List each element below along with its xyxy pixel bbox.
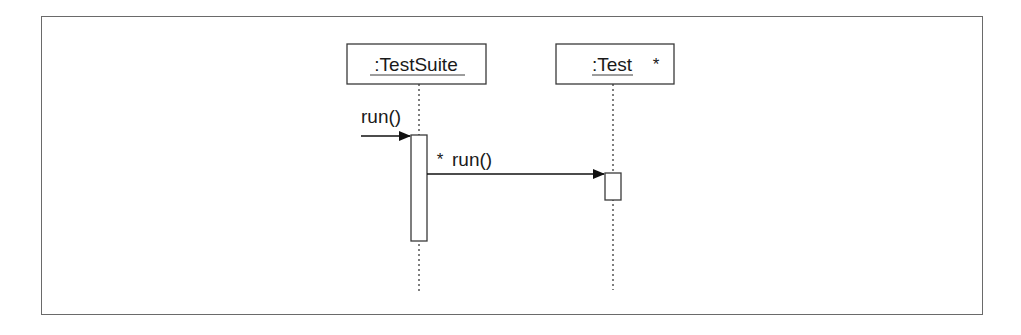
testsuite-activation-bar	[411, 135, 427, 241]
sequence-diagram: :TestSuite :Test * run() * run()	[0, 0, 1021, 335]
incoming-run-label: run()	[361, 106, 401, 127]
test-label: :Test	[592, 54, 633, 75]
test-activation-bar	[605, 173, 621, 200]
testsuite-label: :TestSuite	[374, 54, 457, 75]
iteration-marker: *	[437, 150, 444, 169]
message-incoming-run: run()	[361, 106, 410, 136]
test-multiplicity: *	[653, 55, 660, 74]
message-iterated-run: * run()	[427, 149, 604, 174]
lifeline-test: :Test *	[556, 44, 674, 290]
iterated-run-label: run()	[452, 149, 492, 170]
